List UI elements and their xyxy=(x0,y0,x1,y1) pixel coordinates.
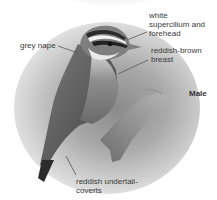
label-line: reddish-brown xyxy=(151,46,202,55)
leader-line-nape xyxy=(58,46,78,53)
label-supercilium: white supercilium and forehead xyxy=(149,11,205,38)
label-nape: grey nape xyxy=(20,41,56,50)
label-line: white xyxy=(149,11,205,20)
label-undertail: reddish undertail- coverts xyxy=(76,177,138,195)
leader-line-supercilium xyxy=(127,32,147,40)
eye xyxy=(108,42,112,46)
label-line: grey nape xyxy=(20,41,56,50)
leader-line-undertail xyxy=(66,156,76,175)
label-line: breast xyxy=(151,55,202,64)
label-line: coverts xyxy=(76,186,138,195)
bird-illustration-figure: white supercilium and forehead grey nape… xyxy=(0,0,217,200)
label-line: supercilium and xyxy=(149,20,205,29)
label-line: forehead xyxy=(149,29,205,38)
label-breast: reddish-brown breast xyxy=(151,46,202,64)
leader-line-breast xyxy=(118,60,148,74)
label-line: reddish undertail- xyxy=(76,177,138,186)
sex-label: Male xyxy=(189,89,207,98)
